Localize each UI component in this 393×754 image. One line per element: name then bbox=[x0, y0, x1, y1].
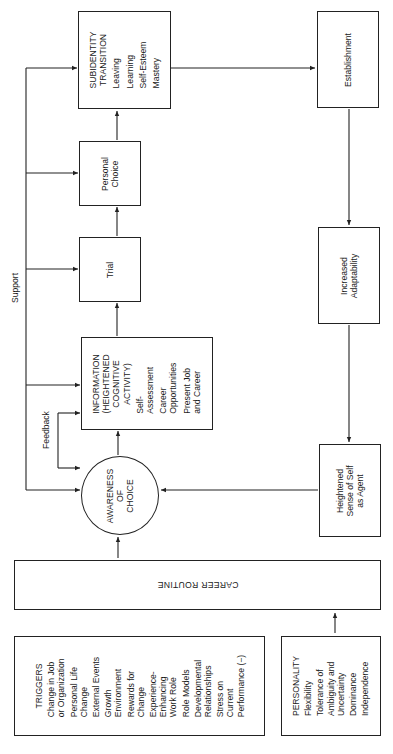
support-label: Support bbox=[4, 268, 26, 308]
information-title-line: COGNITIVE bbox=[112, 354, 122, 414]
trigger-item: Change bbox=[78, 655, 88, 717]
trigger-item: or Organization bbox=[56, 655, 66, 717]
information-title-line: INFORMATION bbox=[91, 354, 101, 414]
establishment-text: Establishment bbox=[343, 33, 353, 87]
trigger-item: Environment bbox=[113, 655, 123, 717]
trial-text: Trial bbox=[105, 261, 115, 277]
feedback-label: Feedback bbox=[35, 408, 57, 452]
trigger-item: Developmental bbox=[192, 655, 202, 717]
trigger-item: Change bbox=[135, 655, 145, 717]
trigger-item: Experience- bbox=[148, 655, 158, 717]
triggers-box: TRIGGERS Change in Job or Organization P… bbox=[14, 636, 265, 736]
personal-choice-text: Personal Choice bbox=[100, 157, 120, 191]
establishment-label: Establishment bbox=[343, 33, 353, 87]
personality-item: Dominance bbox=[348, 656, 358, 716]
trigger-item: Change in Job bbox=[46, 655, 56, 717]
awareness-of-choice-text: AWARENESS OF CHOICE bbox=[105, 468, 136, 522]
heightened-sense-box: Heightened Sense of Self as Agent bbox=[319, 444, 381, 537]
personality-item: Independence bbox=[361, 656, 371, 716]
information-title-line: (HEIGHTENED bbox=[102, 354, 112, 414]
support-text: Support bbox=[10, 273, 20, 303]
personal-choice-line1: Personal bbox=[100, 157, 110, 191]
subidentity-item: Leaving bbox=[111, 32, 121, 89]
awareness-line2: OF bbox=[115, 468, 125, 522]
trigger-item: Personal Life bbox=[68, 655, 78, 717]
trigger-item: Stress on bbox=[215, 655, 225, 717]
heightened-line3: as Agent bbox=[355, 465, 365, 516]
trigger-item: Rewards for bbox=[125, 655, 135, 717]
personality-item: Ambiguity and bbox=[326, 656, 336, 716]
personality-item: Flexibility bbox=[303, 656, 313, 716]
personality-text: PERSONALITY Flexibility Tolerance of Amb… bbox=[291, 656, 370, 716]
subidentity-title-line2: TRANSITION bbox=[98, 32, 108, 89]
subidentity-title-line1: SUBIDENTITY bbox=[88, 32, 98, 89]
trigger-item: Work Role bbox=[168, 655, 178, 717]
subidentity-item: Self-Esteem bbox=[138, 32, 148, 89]
personality-box: PERSONALITY Flexibility Tolerance of Amb… bbox=[281, 636, 381, 736]
trigger-item: Performance (−) bbox=[235, 655, 245, 717]
awareness-line3: CHOICE bbox=[125, 468, 135, 522]
trigger-item: External Events bbox=[91, 655, 101, 717]
information-item: Opportunities bbox=[169, 354, 179, 414]
career-routine-box: CAREER ROUTINE bbox=[14, 560, 381, 610]
personality-item: Tolerance of bbox=[316, 656, 326, 716]
trigger-item: Relationships bbox=[203, 655, 213, 717]
subidentity-transition-text: SUBIDENTITY TRANSITION Leaving Learning … bbox=[88, 32, 161, 89]
trial-label: Trial bbox=[105, 261, 115, 277]
awareness-line1: AWARENESS bbox=[105, 468, 115, 522]
subidentity-transition-box: SUBIDENTITY TRANSITION Leaving Learning … bbox=[78, 11, 171, 109]
adaptability-line1: Increased bbox=[339, 253, 349, 297]
heightened-line1: Heightened bbox=[335, 465, 345, 516]
information-title-line: ACTIVITY) bbox=[122, 354, 132, 414]
subidentity-item: Mastery bbox=[151, 32, 161, 89]
triggers-title: TRIGGERS bbox=[34, 655, 44, 717]
trigger-item: Growth bbox=[103, 655, 113, 717]
establishment-box: Establishment bbox=[317, 11, 379, 108]
trial-box: Trial bbox=[79, 237, 141, 302]
personal-choice-line2: Choice bbox=[110, 157, 120, 191]
awareness-of-choice-circle: AWARENESS OF CHOICE bbox=[81, 456, 159, 535]
trigger-item: Enhancing bbox=[158, 655, 168, 717]
information-item: Assessment bbox=[146, 354, 156, 414]
personality-item: Uncertainty bbox=[336, 656, 346, 716]
trigger-item: Role Models bbox=[180, 655, 190, 717]
information-text: INFORMATION (HEIGHTENED COGNITIVE ACTIVI… bbox=[91, 354, 202, 414]
feedback-text: Feedback bbox=[41, 411, 51, 449]
increased-adaptability-box: Increased Adaptability bbox=[318, 227, 380, 324]
information-item: Self- bbox=[135, 354, 145, 414]
trigger-item: Current bbox=[225, 655, 235, 717]
heightened-line2: Sense of Self bbox=[345, 465, 355, 516]
information-item: Career bbox=[159, 354, 169, 414]
heightened-sense-text: Heightened Sense of Self as Agent bbox=[335, 465, 366, 516]
increased-adaptability-text: Increased Adaptability bbox=[339, 253, 359, 297]
adaptability-line2: Adaptability bbox=[349, 253, 359, 297]
triggers-text: TRIGGERS Change in Job or Organization P… bbox=[34, 655, 246, 717]
information-item: and Career bbox=[192, 354, 202, 414]
subidentity-item: Learning bbox=[125, 32, 135, 89]
personality-title: PERSONALITY bbox=[291, 656, 301, 716]
information-item: Present Job bbox=[182, 354, 192, 414]
information-box: INFORMATION (HEIGHTENED COGNITIVE ACTIVI… bbox=[81, 337, 213, 430]
personal-choice-box: Personal Choice bbox=[79, 141, 141, 206]
career-routine-label: CAREER ROUTINE bbox=[157, 580, 238, 590]
